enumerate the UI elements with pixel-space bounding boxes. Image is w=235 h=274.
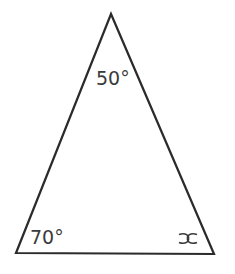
angle-label-bottom-right: x — [178, 230, 198, 244]
angle-label-bottom-left: 70° — [30, 228, 64, 247]
triangle-shape — [16, 14, 214, 254]
angle-label-top: 50° — [96, 69, 130, 88]
